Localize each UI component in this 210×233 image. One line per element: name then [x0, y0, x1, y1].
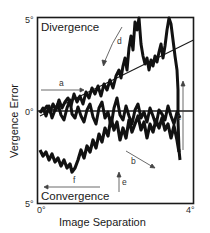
label-d: d: [117, 36, 122, 46]
label-e: e: [122, 177, 127, 187]
label-b: b: [131, 156, 136, 166]
label-f: f: [73, 175, 76, 185]
y-tick-bottom: 5°: [25, 199, 34, 209]
vergence-error-chart: a d c b e f Divergence Convergence 5° 0°…: [0, 0, 210, 233]
x-axis-title: Image Separation: [59, 216, 146, 228]
region-convergence-label: Convergence: [41, 190, 109, 202]
arrow-c-head: [181, 81, 185, 86]
region-divergence-label: Divergence: [41, 21, 99, 33]
y-tick-zero: 0°: [25, 107, 34, 117]
arrow-a-head: [80, 88, 84, 92]
label-a: a: [59, 78, 64, 88]
trace-convergence: [40, 116, 179, 172]
arrow-d-head: [102, 60, 107, 66]
x-tick-right: 4°: [186, 205, 195, 215]
trace-divergence: [40, 18, 180, 160]
x-tick-left: 0°: [37, 205, 46, 215]
arrow-b-head: [150, 164, 155, 168]
y-tick-top: 5°: [25, 15, 34, 25]
y-axis-title: Vergence Error: [8, 84, 20, 158]
label-c: c: [177, 112, 182, 122]
arrow-e-head: [117, 172, 121, 177]
arrow-f-head: [44, 185, 48, 189]
